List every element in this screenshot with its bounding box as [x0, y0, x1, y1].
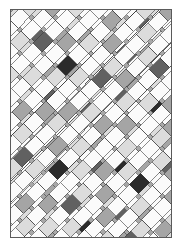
- artboard: Diagonal Lattice Weave: [0, 0, 182, 247]
- lattice-weave-graphic: [11, 10, 171, 237]
- artwork-canvas: [10, 9, 172, 238]
